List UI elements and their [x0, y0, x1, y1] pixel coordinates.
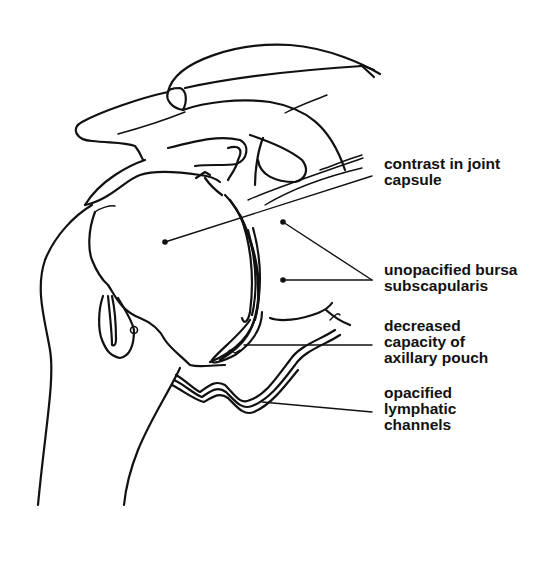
scapular-spine-outline — [76, 92, 168, 160]
clavicle-line — [185, 66, 362, 88]
leader-lymphatic — [262, 402, 372, 412]
leader-bursa-upper — [283, 222, 372, 280]
label-decreased-capacity-axillary-pouch: decreased capacity of axillary pouch — [384, 318, 488, 366]
label-contrast-in-joint-capsule: contrast in joint capsule — [384, 156, 500, 188]
acromioclavicular-loop — [167, 88, 186, 110]
leader-contrast — [165, 176, 372, 242]
label-unopacified-bursa-subscapularis: unopacified bursa subscapularis — [384, 262, 518, 294]
coracoid-process — [168, 138, 246, 166]
shoulder-arthrogram-diagram: contrast in joint capsule unopacified bu… — [0, 0, 556, 571]
label-opacified-lymphatic-channels: opacified lymphatic channels — [384, 385, 456, 433]
humeral-shaft — [124, 368, 180, 505]
humeral-head — [89, 212, 225, 366]
